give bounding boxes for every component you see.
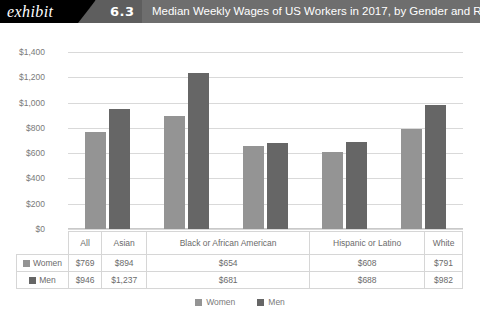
bar-group xyxy=(147,52,226,229)
table-body: Women$769$894$654$608$791Men$946$1,237$6… xyxy=(17,255,463,289)
table-column-header-asian: Asian xyxy=(102,232,147,255)
bar-chart-plot-area: $0$200$400$600$800$1,000$1,200$1,400 xyxy=(68,52,463,229)
y-axis-tick-label: $400 xyxy=(0,173,45,183)
table-column-header-black-or-african-american: Black or African American xyxy=(147,232,310,255)
table-header-row: AllAsianBlack or African AmericanHispani… xyxy=(17,232,463,255)
legend-swatch-icon xyxy=(195,299,202,306)
table-cell: $946 xyxy=(69,272,102,289)
series-swatch-icon xyxy=(29,277,36,284)
table-cell: $894 xyxy=(102,255,147,272)
table-cell: $982 xyxy=(425,272,463,289)
series-swatch-icon xyxy=(23,260,30,267)
bar-women-black-or-african-american xyxy=(243,146,264,229)
bar-women-all xyxy=(85,132,106,229)
bar-women-hispanic-or-latino xyxy=(322,152,343,229)
table-column-header-all: All xyxy=(69,232,102,255)
table-column-header-hispanic-or-latino: Hispanic or Latino xyxy=(310,232,425,255)
legend-item-women: Women xyxy=(195,297,235,307)
legend-label: Women xyxy=(206,297,235,307)
table-corner-cell xyxy=(17,232,69,255)
chart-legend: WomenMen xyxy=(0,297,480,307)
bar-group xyxy=(226,52,305,229)
bar-women-white xyxy=(401,129,422,229)
y-axis-tick-label: $1,000 xyxy=(0,98,45,108)
table-cell: $1,237 xyxy=(102,272,147,289)
table-row-label-women: Women xyxy=(17,255,69,272)
bar-group xyxy=(384,52,463,229)
exhibit-title: Median Weekly Wages of US Workers in 201… xyxy=(152,3,478,20)
table-row: Women$769$894$654$608$791 xyxy=(17,255,463,272)
table-cell: $608 xyxy=(310,255,425,272)
bar-men-white xyxy=(425,105,446,229)
table-row-label-men: Men xyxy=(17,272,69,289)
table-row: Men$946$1,237$681$688$982 xyxy=(17,272,463,289)
exhibit-label: exhibit xyxy=(7,2,53,21)
data-table: AllAsianBlack or African AmericanHispani… xyxy=(16,231,463,289)
exhibit-number: 6.3 xyxy=(110,3,135,20)
gridline xyxy=(68,229,463,230)
exhibit-header: exhibit 6.3 Median Weekly Wages of US Wo… xyxy=(0,0,480,23)
bar-group xyxy=(305,52,384,229)
bar-women-asian xyxy=(164,116,185,229)
bar-men-asian xyxy=(188,73,209,229)
table-cell: $654 xyxy=(147,255,310,272)
bar-men-black-or-african-american xyxy=(267,143,288,229)
bar-group xyxy=(68,52,147,229)
legend-swatch-icon xyxy=(257,299,264,306)
y-axis-tick-label: $1,400 xyxy=(0,47,45,57)
table-cell: $791 xyxy=(425,255,463,272)
exhibit-figure: exhibit 6.3 Median Weekly Wages of US Wo… xyxy=(0,0,480,323)
y-axis-tick-label: $200 xyxy=(0,199,45,209)
table-cell: $688 xyxy=(310,272,425,289)
legend-label: Men xyxy=(268,297,285,307)
y-axis-tick-label: $800 xyxy=(0,123,45,133)
bar-men-all xyxy=(109,109,130,229)
legend-item-men: Men xyxy=(257,297,285,307)
table-cell: $681 xyxy=(147,272,310,289)
table-column-header-white: White xyxy=(425,232,463,255)
y-axis-tick-label: $600 xyxy=(0,148,45,158)
y-axis-tick-label: $1,200 xyxy=(0,72,45,82)
bar-men-hispanic-or-latino xyxy=(346,142,367,229)
table-cell: $769 xyxy=(69,255,102,272)
